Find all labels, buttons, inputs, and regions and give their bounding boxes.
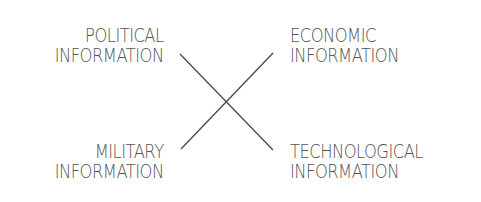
political-information-label: POLITICAL INFORMATION [55,25,164,65]
technological-label-line1: TECHNOLOGICAL [290,141,423,161]
military-information-label: MILITARY INFORMATION [55,141,164,181]
information-cross-diagram: POLITICAL INFORMATION ECONOMIC INFORMATI… [0,0,481,202]
technological-label-line2: INFORMATION [290,161,423,181]
political-label-line2: INFORMATION [55,45,164,65]
economic-label-line1: ECONOMIC [290,25,399,45]
technological-information-label: TECHNOLOGICAL INFORMATION [290,141,423,181]
economic-information-label: ECONOMIC INFORMATION [290,25,399,65]
political-label-line1: POLITICAL [55,25,164,45]
military-label-line2: INFORMATION [55,161,164,181]
economic-label-line2: INFORMATION [290,45,399,65]
military-label-line1: MILITARY [55,141,164,161]
connector-economic-to-military [181,53,273,149]
